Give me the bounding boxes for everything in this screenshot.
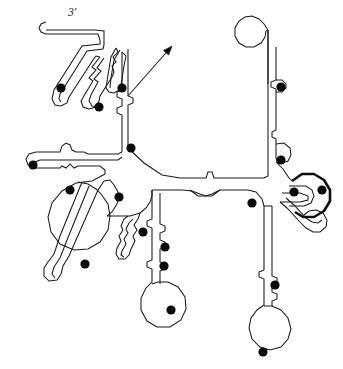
modified-nucleotide-dot bbox=[56, 83, 65, 92]
modified-nucleotide-dot bbox=[28, 160, 37, 169]
modified-nucleotide-dot bbox=[317, 185, 326, 194]
modified-nucleotide-dot bbox=[117, 83, 126, 92]
modified-nucleotide-dot bbox=[276, 82, 285, 91]
rna-structure-canvas: 3' bbox=[0, 0, 343, 369]
modified-nucleotide-dot bbox=[94, 102, 103, 111]
modified-nucleotide-dot bbox=[80, 259, 89, 268]
modified-nucleotide-dot bbox=[276, 155, 285, 164]
modified-nucleotide-dot bbox=[126, 143, 135, 152]
modified-nucleotide-dot bbox=[247, 198, 256, 207]
modified-nucleotide-dot bbox=[159, 261, 168, 270]
rna-structure-diagram: 3' bbox=[0, 0, 343, 369]
modified-nucleotide-dot bbox=[258, 347, 267, 356]
modified-nucleotide-dot bbox=[138, 227, 147, 236]
modified-nucleotide-dot bbox=[289, 187, 298, 196]
modified-nucleotide-dot bbox=[114, 192, 123, 201]
modified-nucleotide-dot bbox=[160, 242, 169, 251]
three-prime-end-label: 3' bbox=[67, 6, 77, 18]
modified-nucleotide-dot bbox=[65, 185, 74, 194]
modified-nucleotide-dot bbox=[270, 280, 279, 289]
modified-nucleotide-dot bbox=[166, 305, 175, 314]
